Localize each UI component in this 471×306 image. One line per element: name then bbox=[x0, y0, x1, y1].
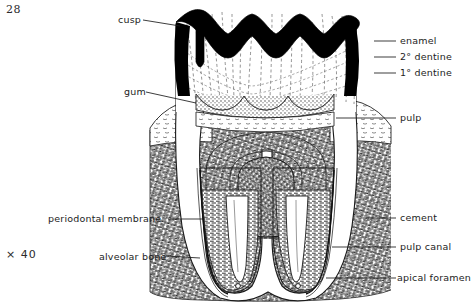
label-secondary-dentine: 2° dentine bbox=[400, 51, 452, 62]
label-gum: gum bbox=[124, 86, 146, 97]
label-pulp-canal: pulp canal bbox=[400, 241, 451, 252]
label-apical-foramen: apical foramen bbox=[397, 272, 471, 283]
secondary-dentine-band bbox=[196, 94, 334, 118]
label-alveolar-bone: alveolar bone bbox=[99, 251, 166, 262]
label-periodontal-membrane: periodontal membrane bbox=[48, 213, 161, 224]
apical-foramen-right bbox=[296, 284, 301, 289]
label-cement: cement bbox=[400, 212, 437, 223]
label-enamel: enamel bbox=[400, 35, 437, 46]
label-primary-dentine: 1° dentine bbox=[400, 67, 452, 78]
label-cusp: cusp bbox=[118, 14, 141, 25]
leader-cusp bbox=[143, 20, 180, 26]
label-pulp: pulp bbox=[400, 112, 422, 123]
apical-foramen-left bbox=[236, 284, 241, 289]
